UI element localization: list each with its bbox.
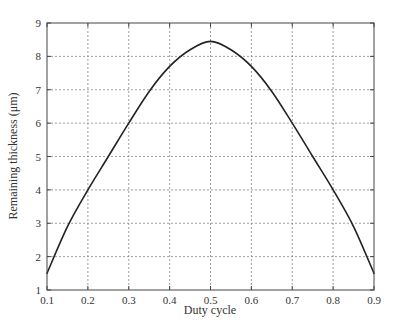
x-tick-label: 0.8 [326,294,340,306]
y-tick-label: 4 [36,184,42,196]
y-tick-label: 7 [36,84,42,96]
x-tick-label: 0.9 [367,294,381,306]
y-tick-label: 8 [36,50,42,62]
y-tick-label: 9 [36,17,42,29]
y-tick-label: 1 [36,284,42,296]
grid-lines [47,23,374,290]
x-tick-label: 0.7 [285,294,299,306]
y-tick-label: 2 [36,251,42,263]
y-axis-label: Remaining thickness (μm) [6,92,20,219]
x-axis-label: Duty cycle [184,303,236,317]
line-chart: 0.10.20.30.40.50.60.70.80.9123456789 Dut… [0,0,398,329]
x-tick-label: 0.1 [40,294,54,306]
tick-labels: 0.10.20.30.40.50.60.70.80.9123456789 [36,17,382,306]
y-tick-label: 3 [36,217,42,229]
x-tick-label: 0.4 [163,294,177,306]
x-tick-label: 0.2 [81,294,95,306]
y-tick-label: 5 [36,151,42,163]
x-tick-label: 0.3 [122,294,136,306]
y-tick-label: 6 [36,117,42,129]
x-tick-label: 0.6 [245,294,259,306]
